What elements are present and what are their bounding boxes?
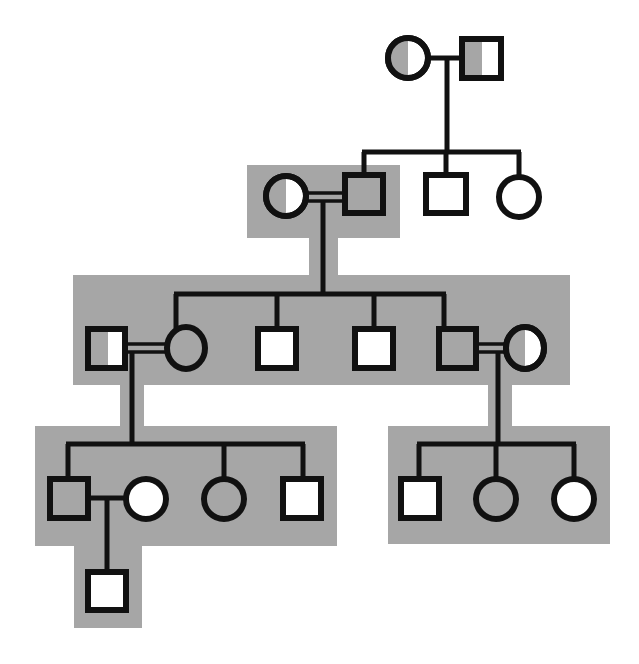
individual-III-1-male-carrier[interactable] (88, 329, 125, 368)
individual-II-2-male-affected[interactable] (345, 175, 383, 213)
individual-III-2-female-affected[interactable] (167, 327, 205, 369)
individual-IV-1-male-affected[interactable] (50, 479, 88, 518)
individual-III-4-male-unaffected[interactable] (355, 329, 393, 368)
individual-IV-2-female-unaffected[interactable] (126, 479, 166, 519)
individual-III-5-male-affected[interactable] (439, 329, 476, 368)
individual-IV-3-female-affected[interactable] (204, 479, 244, 519)
individual-II-3-male-unaffected[interactable] (426, 175, 466, 213)
individual-IV-4-male-unaffected[interactable] (283, 479, 321, 518)
individual-IV-6-female-affected[interactable] (476, 479, 516, 519)
individual-I-1-female-carrier[interactable] (388, 38, 428, 78)
individual-IV-7-female-unaffected[interactable] (554, 479, 594, 519)
individual-I-2-male-carrier[interactable] (462, 39, 501, 78)
pedigree-chart (0, 0, 639, 664)
generation-5 (88, 572, 126, 610)
generation-4 (50, 479, 594, 519)
individual-IV-5-male-unaffected[interactable] (401, 479, 439, 518)
individual-III-3-male-unaffected[interactable] (258, 329, 296, 368)
individual-V-1-male-unaffected[interactable] (88, 572, 126, 610)
individual-II-4-female-unaffected[interactable] (499, 177, 539, 217)
individual-III-6-female-carrier[interactable] (506, 327, 544, 369)
individual-II-1-female-carrier[interactable] (266, 176, 306, 216)
